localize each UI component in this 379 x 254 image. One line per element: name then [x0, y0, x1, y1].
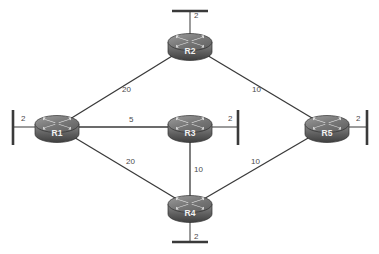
router-r4-label: R4 [185, 208, 196, 218]
routers-layer: R1 R2 R3 R4 R5 [35, 34, 349, 223]
link-cost-r2-r5: 10 [252, 85, 261, 94]
link-cost-r1-r2: 20 [122, 85, 131, 94]
router-r5-label: R5 [322, 128, 333, 138]
router-r2[interactable]: R2 [168, 34, 212, 61]
router-r1-label: R1 [52, 128, 63, 138]
link-cost-r4-r5: 10 [251, 157, 260, 166]
lan-segment-r3 [211, 110, 238, 145]
lan-cost-r3: 2 [228, 114, 233, 123]
lan-cost-r4: 2 [194, 232, 199, 241]
lan-cost-r1: 2 [21, 114, 26, 123]
link-cost-r3-r4: 10 [194, 165, 203, 174]
network-diagram: R1 R2 R3 R4 R5 20 10 5 [0, 0, 379, 254]
link-r4-r5 [190, 127, 327, 207]
link-cost-r1-r4: 20 [126, 157, 135, 166]
router-r4[interactable]: R4 [168, 196, 212, 223]
topology-canvas: R1 R2 R3 R4 R5 20 10 5 [0, 0, 379, 254]
router-r3-label: R3 [185, 128, 196, 138]
router-r1[interactable]: R1 [35, 116, 79, 143]
router-r5[interactable]: R5 [305, 116, 349, 143]
router-r3[interactable]: R3 [168, 116, 212, 143]
lan-segment-r2 [172, 11, 208, 36]
link-cost-r1-r3: 5 [129, 115, 134, 124]
router-r2-label: R2 [185, 46, 196, 56]
link-r1-r4 [57, 127, 190, 207]
lan-cost-r2: 2 [194, 11, 199, 20]
lan-cost-r5: 2 [356, 114, 361, 123]
